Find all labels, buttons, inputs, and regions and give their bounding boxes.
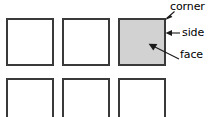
- side-leader: [166, 30, 181, 36]
- square-r2c3: [119, 79, 165, 117]
- annotation-label-side: side: [182, 27, 204, 38]
- annotation-label-face: face: [180, 49, 203, 60]
- square-r1c3-shaded: [119, 19, 165, 65]
- figure-canvas: corner side face: [0, 0, 219, 117]
- square-r1c2: [63, 19, 109, 65]
- square-r1c1: [7, 19, 53, 65]
- square-r2c1: [7, 79, 53, 117]
- square-r2c2: [63, 79, 109, 117]
- annotation-label-corner: corner: [170, 1, 205, 12]
